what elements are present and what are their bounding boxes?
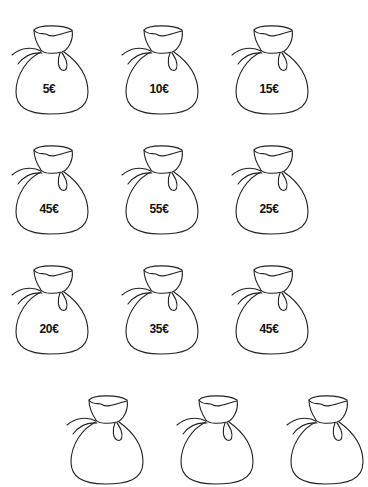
bag-amount-label: 10€	[114, 82, 204, 96]
money-bag: 55€	[114, 142, 204, 237]
money-bag: 25€	[224, 142, 314, 237]
bag-amount-label: 15€	[224, 82, 314, 96]
money-bag-icon	[224, 262, 314, 357]
money-bag: 45€	[224, 262, 314, 357]
money-bag-icon	[4, 142, 94, 237]
bag-amount-label: 20€	[4, 322, 94, 336]
money-bag	[59, 392, 149, 487]
money-bag-icon	[224, 142, 314, 237]
money-bag: 20€	[4, 262, 94, 357]
bag-amount-label: 45€	[224, 322, 314, 336]
money-bag-icon	[4, 22, 94, 117]
money-bag-icon	[114, 22, 204, 117]
money-bag-icon	[114, 142, 204, 237]
money-bag-icon	[114, 262, 204, 357]
money-bag: 45€	[4, 142, 94, 237]
money-bag: 15€	[224, 22, 314, 117]
money-bag-icon	[4, 262, 94, 357]
money-bag	[169, 392, 259, 487]
bag-amount-label: 55€	[114, 202, 204, 216]
money-bag-icon	[59, 392, 149, 487]
money-bag-icon	[279, 392, 368, 487]
bag-amount-label: 25€	[224, 202, 314, 216]
money-bag-icon	[169, 392, 259, 487]
money-bag: 35€	[114, 262, 204, 357]
money-bag	[279, 392, 368, 487]
money-bag: 5€	[4, 22, 94, 117]
money-bag-icon	[224, 22, 314, 117]
bag-amount-label: 35€	[114, 322, 204, 336]
money-bag: 10€	[114, 22, 204, 117]
bag-amount-label: 45€	[4, 202, 94, 216]
bag-amount-label: 5€	[4, 82, 94, 96]
